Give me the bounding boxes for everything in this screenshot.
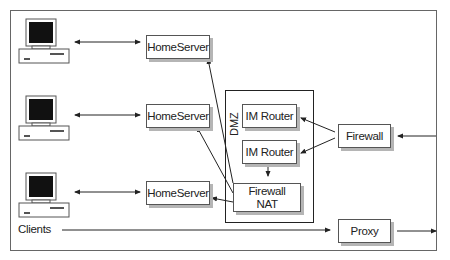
arrow-firewall-imrouter1 bbox=[301, 118, 335, 132]
homeserver-node-2: HomeServer bbox=[146, 104, 210, 128]
client-computer-icon-1 bbox=[19, 19, 69, 63]
homeserver-label: HomeServer bbox=[147, 110, 209, 123]
firewall-label: Firewall bbox=[346, 130, 383, 143]
firewall-nat-label-line2: NAT bbox=[256, 198, 277, 211]
im-router-label: IM Router bbox=[246, 110, 294, 123]
homeserver-label: HomeServer bbox=[147, 187, 209, 200]
im-router-label: IM Router bbox=[246, 146, 294, 159]
homeserver-node-1: HomeServer bbox=[146, 35, 210, 59]
im-router-node-2: IM Router bbox=[242, 140, 297, 164]
im-router-node-1: IM Router bbox=[242, 104, 297, 128]
client-computer-icon-3 bbox=[19, 173, 69, 217]
arrow-firewall-imrouter2 bbox=[301, 138, 335, 153]
firewall-nat-label-line1: Firewall bbox=[248, 185, 285, 198]
homeserver-label: HomeServer bbox=[147, 41, 209, 54]
dmz-label: DMZ bbox=[228, 112, 240, 136]
firewall-nat-node: Firewall NAT bbox=[233, 183, 301, 212]
network-diagram: HomeServer HomeServer HomeServer IM Rout… bbox=[0, 0, 450, 260]
proxy-label: Proxy bbox=[351, 225, 379, 238]
client-computer-icon-2 bbox=[19, 96, 69, 140]
homeserver-node-3: HomeServer bbox=[146, 181, 210, 205]
firewall-node: Firewall bbox=[338, 124, 391, 148]
arrow-nat-homeserver3 bbox=[212, 198, 233, 202]
clients-label: Clients bbox=[18, 223, 51, 235]
proxy-node: Proxy bbox=[338, 219, 391, 243]
